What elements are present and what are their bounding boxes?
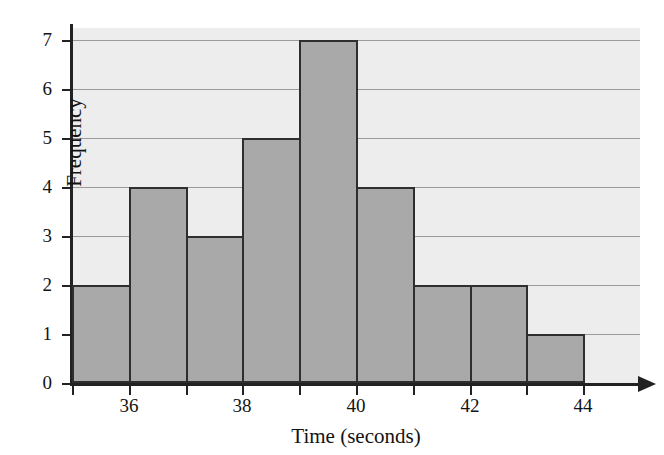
y-axis-tick-label: 6 (30, 79, 52, 98)
histogram-bar (356, 187, 415, 383)
histogram-bar (186, 236, 245, 383)
histogram-bar (470, 285, 529, 383)
histogram-bar (72, 285, 131, 383)
y-axis-tick-label: 7 (30, 30, 52, 49)
x-axis-tick (526, 386, 528, 395)
x-axis-line (70, 383, 640, 386)
y-axis-tick (62, 334, 71, 336)
x-axis-tick (242, 386, 244, 395)
y-axis-tick-label: 5 (30, 128, 52, 147)
y-axis-tick (62, 40, 71, 42)
y-axis-tick (62, 383, 71, 385)
x-axis-tick-label: 44 (563, 396, 603, 415)
y-axis-tick-label: 4 (30, 177, 52, 196)
x-axis-tick (186, 386, 188, 395)
x-axis-tick (583, 386, 585, 395)
histogram-figure: 01234567 3638404244 Frequency Time (seco… (0, 0, 664, 455)
y-axis-title: Frequency (62, 63, 87, 223)
histogram-bar (129, 187, 188, 383)
x-axis-tick-label: 38 (222, 396, 262, 415)
histogram-bar (242, 138, 301, 383)
x-axis-tick (413, 386, 415, 395)
histogram-bar (299, 40, 358, 383)
y-axis-tick-label: 0 (30, 373, 52, 392)
plot-area (72, 28, 640, 383)
y-axis-tick-label: 2 (30, 275, 52, 294)
y-axis-tick-label: 3 (30, 226, 52, 245)
x-axis-tick-label: 42 (450, 396, 490, 415)
histogram-bar (526, 334, 585, 383)
x-axis-title: Time (seconds) (72, 424, 640, 449)
histogram-bar (413, 285, 472, 383)
x-axis-tick (470, 386, 472, 395)
x-axis-tick (356, 386, 358, 395)
y-axis-tick (62, 236, 71, 238)
x-axis-tick (72, 386, 74, 395)
x-axis-arrow-icon (638, 376, 656, 392)
x-axis-tick (299, 386, 301, 395)
y-axis-tick-label: 1 (30, 324, 52, 343)
y-axis-tick (62, 285, 71, 287)
x-axis-tick (129, 386, 131, 395)
x-axis-tick-label: 40 (336, 396, 376, 415)
x-axis-tick-label: 36 (109, 396, 149, 415)
